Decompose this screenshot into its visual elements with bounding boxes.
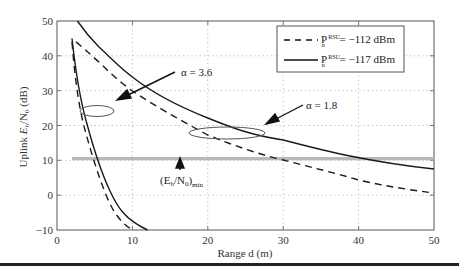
svg-text:10: 10	[127, 234, 139, 246]
y-axis-title: Uplink Eb/N0 (dB)	[17, 86, 31, 167]
svg-text:20: 20	[42, 120, 54, 132]
range-ebn0-chart: α = 3.6 α = 1.8 (Eb/N0)min PRSUn = −112 …	[0, 0, 459, 275]
bottom-rule-divider	[0, 263, 459, 266]
svg-text:30: 30	[42, 85, 54, 97]
y-tick-labels: 50 40 30 20 10 0 −10	[36, 15, 54, 236]
svg-text:40: 40	[42, 50, 54, 62]
svg-text:40: 40	[353, 234, 365, 246]
svg-text:50: 50	[42, 15, 54, 27]
svg-text:50: 50	[429, 234, 441, 246]
svg-text:30: 30	[278, 234, 290, 246]
svg-text:20: 20	[202, 234, 214, 246]
svg-text:10: 10	[42, 154, 54, 166]
x-tick-labels: 0 10 20 30 40 50	[54, 234, 440, 246]
x-axis-title: Range d (m)	[218, 247, 273, 260]
svg-text:−10: −10	[36, 224, 54, 236]
alpha-1.8-label: α = 1.8	[306, 99, 338, 111]
legend: PRSUn = −112 dBm PRSUn = −117 dBm	[277, 26, 404, 72]
alpha-3.6-label: α = 3.6	[181, 66, 213, 78]
svg-text:0: 0	[54, 234, 60, 246]
svg-text:0: 0	[48, 189, 54, 201]
